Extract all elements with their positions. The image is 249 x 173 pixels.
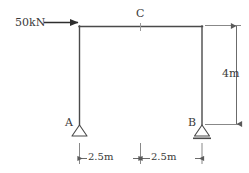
support-a-symbol [72,125,87,136]
support-a-label: A [65,117,73,128]
support-b-label: B [188,117,196,128]
joint-c-label: C [136,8,144,19]
span-left-dimension-label: 2.5m [88,152,113,162]
pin-triangle-icon [72,125,87,136]
height-dimension-label: 4m [222,68,239,79]
frame-members [79,26,203,125]
span-right-dimension-label: 2.5m [151,152,176,162]
load-magnitude-label: 50kN [15,17,45,28]
structural-frame-diagram: 50kN C A B 4m 2.5m 2.5m [0,0,249,173]
roller-triangle-icon [195,125,210,136]
